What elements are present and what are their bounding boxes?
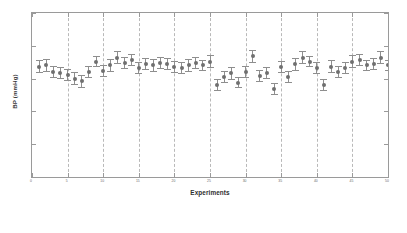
error-bar-point	[107, 59, 114, 72]
x-tick-label: 15	[128, 180, 148, 183]
x-axis-tick	[317, 173, 318, 177]
data-point-marker	[208, 60, 212, 64]
error-bar-cap-top	[221, 71, 228, 72]
error-bar-point	[271, 83, 278, 95]
error-bar-cap-top	[349, 55, 356, 56]
error-bar-cap-top	[50, 66, 57, 67]
data-point-marker	[350, 60, 354, 64]
x-axis-tick	[352, 13, 353, 17]
error-bar-cap-bottom	[349, 67, 356, 68]
x-axis-tick	[210, 173, 211, 177]
data-point-marker	[301, 56, 305, 60]
error-bar-cap-top	[335, 66, 342, 67]
data-point-marker	[358, 58, 362, 62]
error-bar-point	[78, 75, 85, 88]
data-point-marker	[308, 60, 312, 64]
error-bar-cap-top	[385, 60, 389, 61]
error-bar-point	[235, 77, 242, 89]
data-point-marker	[144, 62, 148, 66]
group-separator-line	[281, 13, 282, 177]
error-bar-cap-bottom	[342, 73, 349, 74]
data-point-marker	[386, 63, 388, 67]
data-point-marker	[279, 65, 283, 69]
error-bar-cap-bottom	[50, 77, 57, 78]
error-bar-cap-top	[85, 66, 92, 67]
error-bar-cap-bottom	[278, 72, 285, 73]
error-bar-cap-top	[242, 66, 249, 67]
error-bar-point	[263, 67, 270, 79]
data-point-marker	[315, 66, 319, 70]
plot-area	[32, 13, 388, 177]
error-bar-cap-top	[164, 58, 171, 59]
error-bar-cap-top	[271, 83, 278, 84]
error-bar-point	[249, 50, 256, 63]
x-axis-tick	[352, 173, 353, 177]
error-bar-cap-top	[43, 59, 50, 60]
data-point-marker	[44, 63, 48, 67]
data-point-marker	[194, 61, 198, 65]
data-point-marker	[258, 74, 262, 78]
data-point-marker	[329, 65, 333, 69]
group-separator-line	[68, 13, 69, 177]
error-bar-point	[178, 62, 185, 74]
error-bar-cap-top	[157, 57, 164, 58]
error-bar-cap-bottom	[128, 65, 135, 66]
group-separator-line	[352, 13, 353, 177]
x-tick-label: 35	[270, 180, 290, 183]
group-separator-line	[210, 13, 211, 177]
data-point-marker	[236, 81, 240, 85]
error-bar-cap-bottom	[114, 63, 121, 64]
error-bar-point	[100, 65, 107, 77]
error-bar-cap-top	[78, 75, 85, 76]
data-point-marker	[73, 77, 77, 81]
data-point-marker	[272, 87, 276, 91]
y-axis-tick	[384, 79, 388, 80]
error-bar-point	[85, 66, 92, 78]
data-point-marker	[180, 66, 184, 70]
error-bar-point	[356, 54, 363, 66]
error-bar-cap-top	[36, 60, 43, 61]
data-point-marker	[80, 79, 84, 83]
group-separator-line	[103, 13, 104, 177]
data-point-marker	[66, 73, 70, 77]
error-bar-point	[349, 55, 356, 68]
error-bar-cap-top	[57, 67, 64, 68]
y-axis-title: BP (mmHg)	[11, 22, 18, 162]
error-bar-cap-bottom	[178, 73, 185, 74]
error-bar-cap-bottom	[271, 94, 278, 95]
data-point-marker	[108, 63, 112, 67]
error-bar-cap-bottom	[36, 72, 43, 73]
data-point-marker	[372, 62, 376, 66]
error-bar-cap-bottom	[93, 66, 100, 67]
error-bar-cap-top	[235, 77, 242, 78]
error-bar-point	[121, 57, 128, 69]
error-bar-point	[285, 71, 292, 83]
y-axis-tick	[384, 177, 388, 178]
error-bar-cap-bottom	[100, 76, 107, 77]
x-tick-label: 40	[306, 180, 326, 183]
error-bar-cap-top	[342, 62, 349, 63]
error-bar-cap-bottom	[292, 70, 299, 71]
error-bar-cap-top	[100, 65, 107, 66]
error-bar-cap-bottom	[306, 66, 313, 67]
error-bar-point	[150, 59, 157, 72]
error-bar-cap-bottom	[164, 69, 171, 70]
data-point-marker	[293, 62, 297, 66]
x-tick-label: 5	[57, 180, 77, 183]
y-axis-tick	[384, 144, 388, 145]
data-point-marker	[151, 63, 155, 67]
error-bar-cap-top	[121, 57, 128, 58]
error-bar-cap-bottom	[78, 87, 85, 88]
error-bar-cap-bottom	[107, 71, 114, 72]
error-bar-cap-top	[128, 54, 135, 55]
error-bar-point	[370, 58, 377, 70]
error-bar-cap-top	[207, 55, 214, 56]
error-bar-point	[164, 58, 171, 70]
data-point-marker	[165, 62, 169, 66]
error-bar-cap-bottom	[214, 90, 221, 91]
data-point-marker	[115, 56, 119, 60]
y-axis-tick	[384, 46, 388, 47]
error-bar-cap-top	[171, 61, 178, 62]
error-bar-cap-bottom	[135, 73, 142, 74]
error-bar-cap-top	[263, 67, 270, 68]
